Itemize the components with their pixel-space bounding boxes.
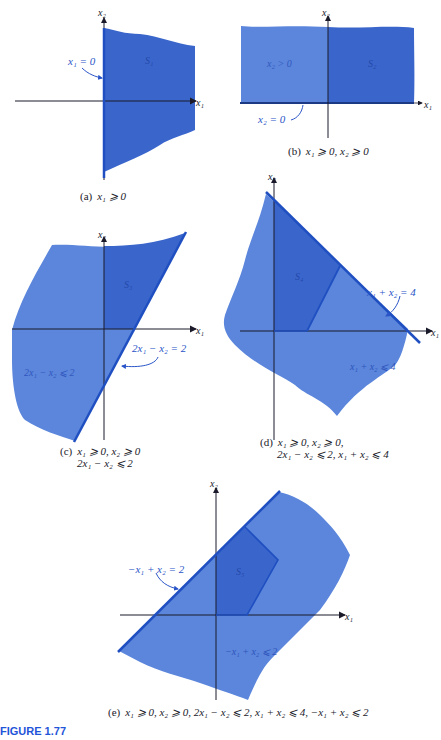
half-plane-label: x₂ > 0 xyxy=(266,58,292,69)
panel-b: x₂ x₁ x₂ > 0 S₂ x₂ = 0 (b)x₁ ⩾ 0, x₂ ⩾ 0 xyxy=(240,7,432,158)
panel-a: x₂ x₁ x₁ = 0 S₁ (a)x₁ ⩾ 0 xyxy=(15,7,204,203)
annotation-arrow xyxy=(156,573,178,589)
axis-label-x1: x₁ xyxy=(430,327,439,338)
line-label: x₁ = 0 xyxy=(67,55,96,67)
caption-d-line2: 2x₁ − x₂ ⩽ 2, x₁ + x₂ ⩽ 4 xyxy=(277,448,389,460)
region-label: S₃ xyxy=(124,279,133,290)
caption-c-line2: 2x₁ − x₂ ⩽ 2 xyxy=(77,457,133,469)
panel-d: x₂ x₁ S₄ x₁ + x₂ = 4 x₁ + x₂ ⩽ 4 (d)x₁ ⩾… xyxy=(224,171,439,460)
line-label: x₂ = 0 xyxy=(257,113,286,125)
line-label: x₁ + x₂ = 4 xyxy=(366,286,416,298)
region-label: S₅ xyxy=(236,566,245,577)
axis-label-x1: x₁ xyxy=(423,99,432,110)
panel-e: x₂ x₁ S₅ −x₁ + x₂ = 2 −x₁ + x₂ ⩽ 2 (e)x₁… xyxy=(108,478,369,719)
half-plane-label: x₁ + x₂ ⩽ 4 xyxy=(349,361,396,372)
axis-label-x2: x₂ xyxy=(97,229,106,240)
region-label: S₄ xyxy=(295,271,304,282)
half-plane-label: −x₁ + x₂ ⩽ 2 xyxy=(225,646,277,657)
axis-label-x1: x₁ xyxy=(344,611,353,622)
figure-canvas: x₂ x₁ x₁ = 0 S₁ (a)x₁ ⩾ 0 x₂ x₁ x₂ > 0 S… xyxy=(0,0,441,740)
caption-a: (a)x₁ ⩾ 0 xyxy=(80,190,126,203)
annotation-arrow xyxy=(291,105,303,120)
caption-e: (e)x₁ ⩾ 0, x₂ ⩾ 0, 2x₁ − x₂ ⩽ 2, x₁ + x₂… xyxy=(108,706,369,719)
annotation-arrow xyxy=(82,68,102,78)
axis-label-x1: x₁ xyxy=(195,97,204,108)
axis-label-x2: x₂ xyxy=(209,478,218,489)
region-label: S₂ xyxy=(368,58,377,69)
region-s3 xyxy=(104,233,185,329)
region-s1 xyxy=(104,28,195,172)
figure-title: FIGURE 1.77 xyxy=(0,725,66,737)
panel-c: x₂ x₁ S₃ 2x₁ − x₂ = 2 2x₁ − x₂ ⩽ 2 (c)x₁… xyxy=(12,229,204,469)
axis-label-x2: x₂ xyxy=(321,7,330,18)
axis-label-x1: x₁ xyxy=(195,325,204,336)
caption-b: (b)x₁ ⩾ 0, x₂ ⩾ 0 xyxy=(288,145,369,158)
line-label: −x₁ + x₂ = 2 xyxy=(128,563,185,575)
axis-label-x2: x₂ xyxy=(267,171,276,182)
annotation-arrow xyxy=(122,357,158,367)
half-plane-label: 2x₁ − x₂ ⩽ 2 xyxy=(24,367,75,378)
line-label: 2x₁ − x₂ = 2 xyxy=(132,342,187,354)
region-label: S₁ xyxy=(145,55,153,66)
axis-label-x2: x₂ xyxy=(97,7,106,18)
